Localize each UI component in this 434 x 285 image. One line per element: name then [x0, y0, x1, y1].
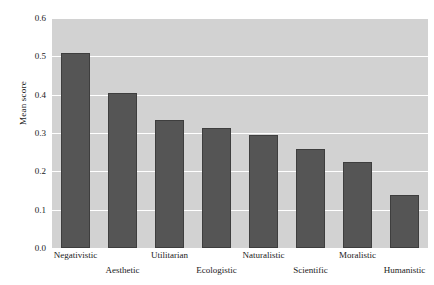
bar-slot	[334, 18, 381, 248]
plot-area	[52, 18, 428, 248]
bar[interactable]	[390, 195, 418, 248]
bar[interactable]	[343, 162, 371, 248]
bar-series	[52, 18, 428, 248]
x-tick-label: Utilitarian	[151, 250, 188, 260]
bar-slot	[99, 18, 146, 248]
y-tick-label: 0.2	[35, 166, 46, 176]
x-tick-label: Negativistic	[54, 250, 98, 260]
x-tick-label: Scientific	[293, 265, 328, 275]
y-tick-label: 0.6	[35, 13, 46, 23]
y-tick-label: 0.0	[35, 243, 46, 253]
bar[interactable]	[296, 149, 324, 248]
y-axis-tick-labels: 0.00.10.20.30.40.50.6	[0, 0, 50, 285]
bar[interactable]	[249, 135, 277, 248]
y-tick-label: 0.1	[35, 205, 46, 215]
y-tick-label: 0.3	[35, 128, 46, 138]
bar[interactable]	[202, 128, 230, 248]
bar-slot	[381, 18, 428, 248]
bar-slot	[52, 18, 99, 248]
bar-slot	[146, 18, 193, 248]
x-tick-label: Humanistic	[384, 265, 426, 275]
bar-slot	[193, 18, 240, 248]
bar[interactable]	[155, 120, 183, 248]
x-tick-label: Ecologistic	[196, 265, 237, 275]
x-tick-label: Moralistic	[339, 250, 376, 260]
y-tick-label: 0.5	[35, 51, 46, 61]
bar[interactable]	[108, 93, 136, 248]
bar-slot	[240, 18, 287, 248]
bar-chart-figure: Mean score 0.00.10.20.30.40.50.6 Negativ…	[0, 0, 434, 285]
x-tick-label: Naturalistic	[243, 250, 285, 260]
y-tick-label: 0.4	[35, 90, 46, 100]
bar[interactable]	[61, 53, 89, 249]
x-axis-tick-labels: NegativisticAestheticUtilitarianEcologis…	[52, 248, 428, 285]
bar-slot	[287, 18, 334, 248]
x-tick-label: Aesthetic	[106, 265, 140, 275]
